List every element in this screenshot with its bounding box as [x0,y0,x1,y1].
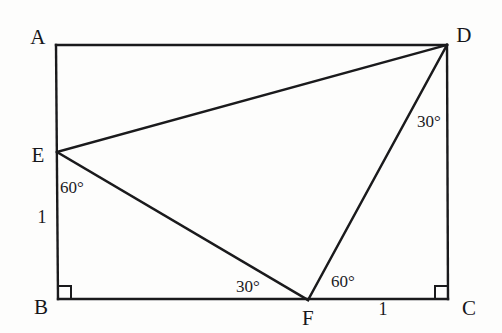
segments-group [56,45,448,300]
angle-at-D-FDC: 30° [417,113,441,130]
segment-EF [57,152,308,300]
length-FC: 1 [379,300,388,318]
side-DC [447,45,448,299]
right-angle-at-C [435,286,448,299]
length-EB: 1 [38,208,47,226]
vertex-label-c: C [462,298,476,319]
angle-at-E-BEF: 60° [60,179,84,196]
segment-FD [308,45,447,300]
right-angle-at-B [58,286,71,299]
vertex-label-a: A [30,27,45,48]
angle-at-F-DFC: 60° [331,273,355,290]
vertex-label-f: F [302,308,314,329]
geometry-figure: ADEBFC60°30°60°30°11 [0,0,502,333]
angle-at-F-EFB: 30° [236,278,260,295]
vertex-label-b: B [34,297,48,318]
vertex-label-e: E [31,145,44,166]
vertex-label-d: D [456,25,471,46]
side-AB [56,45,58,299]
segment-ED [57,45,447,152]
